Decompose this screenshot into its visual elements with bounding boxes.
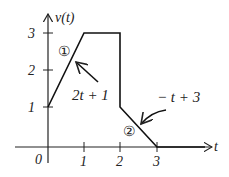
y-tick-1: 1 [28,100,35,115]
y-tick-2: 2 [28,63,35,78]
segment1-equation: 2t + 1 [72,87,109,103]
x-axis-label: t [214,139,219,154]
segment2-equation: − t + 3 [157,89,200,105]
y-axis-label: v(t) [55,10,75,26]
arrow-segment1 [76,62,98,82]
x-tick-3: 3 [152,154,160,169]
y-tick-3: 3 [27,26,35,41]
waveform-diagram: v(t) t 0 1 2 3 1 2 3 ① ② 2t + 1 − t + 3 [0,0,229,177]
segment2-marker: ② [123,124,136,139]
x-tick-1: 1 [80,154,87,169]
origin-label: 0 [35,152,42,167]
arrow-segment2 [141,110,166,124]
segment1-marker: ① [58,44,71,59]
x-tick-2: 2 [116,154,123,169]
